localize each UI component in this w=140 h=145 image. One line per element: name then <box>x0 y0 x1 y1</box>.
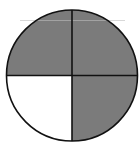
fraction-circle-diagram <box>0 0 140 145</box>
